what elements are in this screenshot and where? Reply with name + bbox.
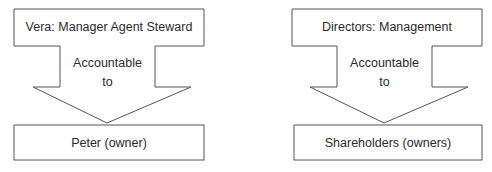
right-bottom-label: Shareholders (owners) — [294, 137, 482, 150]
left-top-label: Vera: Manager Agent Steward — [14, 21, 204, 34]
right-top-label: Directors: Management — [292, 21, 482, 34]
left-arrow-label-line1: Accountable — [60, 54, 155, 73]
right-arrow-label: Accountable to — [337, 54, 432, 92]
right-arrow-label-line1: Accountable — [337, 54, 432, 73]
left-arrow-label-line2: to — [60, 73, 155, 92]
right-arrow-label-line2: to — [337, 73, 432, 92]
left-arrow-label: Accountable to — [60, 54, 155, 92]
left-bottom-label: Peter (owner) — [14, 137, 204, 150]
